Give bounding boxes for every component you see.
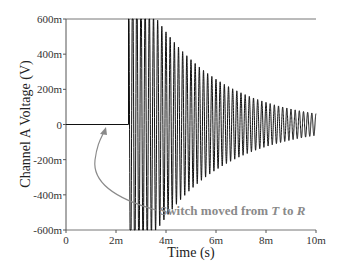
x-tick-label: 2m — [109, 234, 124, 246]
y-axis-label: Channel A Voltage (V) — [18, 60, 34, 188]
annotation-text: Switch moved from T to R — [160, 203, 306, 218]
y-axis-ticks: 600m400m200m0-200m-400m-600m — [33, 13, 66, 236]
voltage-trace — [66, 19, 316, 230]
x-tick-label: 0 — [63, 234, 69, 246]
x-tick-label: 10m — [306, 234, 326, 246]
x-tick-label: 8m — [259, 234, 274, 246]
y-tick-label: -600m — [33, 224, 62, 236]
arrowhead-icon — [100, 127, 107, 135]
x-axis-ticks: 02m4m6m8m10m — [63, 230, 326, 246]
y-tick-label: 200m — [37, 83, 63, 95]
y-tick-label: -400m — [33, 189, 62, 201]
x-axis-label: Time (s) — [167, 245, 215, 261]
y-tick-label: 400m — [37, 48, 63, 60]
y-tick-label: 600m — [37, 13, 63, 25]
y-tick-label: 0 — [57, 119, 63, 131]
chart: 600m400m200m0-200m-400m-600m 02m4m6m8m10… — [0, 0, 339, 277]
y-tick-label: -200m — [33, 154, 62, 166]
